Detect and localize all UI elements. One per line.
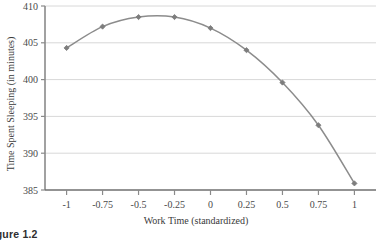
data-point-marker [136, 14, 141, 19]
data-series-line [67, 16, 355, 184]
x-axis-tick-labels: -1-0.75-0.5-0.2500.250.50.751 [62, 199, 356, 210]
x-axis-tick-label: 0.75 [310, 199, 328, 210]
x-axis-tick-label: -0.25 [164, 199, 185, 210]
x-axis-title: Work Time (standardized) [144, 215, 249, 227]
y-axis-title: Time Spent Sleeping (in minutes) [5, 37, 17, 172]
x-axis-tick-label: -0.75 [92, 199, 113, 210]
y-axis-tick-label: 390 [23, 148, 38, 159]
y-axis-tick-label: 410 [23, 1, 38, 12]
data-point-marker [172, 14, 177, 19]
y-axis-tick-labels: 385390395400405410 [23, 1, 38, 196]
y-axis-tick-label: 405 [23, 37, 38, 48]
x-axis-tick-label: 0.25 [238, 199, 256, 210]
data-point-markers [64, 14, 357, 186]
data-point-marker [100, 24, 105, 29]
x-axis-tick-label: -0.5 [131, 199, 147, 210]
y-axis-tick-label: 395 [23, 111, 38, 122]
x-axis-tick-label: 1 [352, 199, 357, 210]
y-axis-tick-label: 385 [23, 185, 38, 196]
figure-caption: Figure 1.2 [0, 228, 38, 240]
y-axis-tick-label: 400 [23, 74, 38, 85]
figure-container: 385390395400405410 -1-0.75-0.5-0.2500.25… [0, 0, 392, 241]
data-point-marker [208, 25, 213, 30]
x-axis-tick-label: 0 [208, 199, 213, 210]
line-chart: 385390395400405410 -1-0.75-0.5-0.2500.25… [0, 0, 392, 241]
x-axis-tick-label: 0.5 [276, 199, 289, 210]
x-axis-tick-label: -1 [62, 199, 70, 210]
data-line [67, 16, 355, 184]
